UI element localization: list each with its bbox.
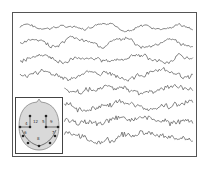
electrode-dot (49, 142, 52, 145)
eeg-trace-5 (64, 84, 192, 95)
electrode-dot (57, 126, 60, 129)
eeg-trace-8 (64, 131, 192, 145)
electrode-dot (29, 126, 32, 129)
electrode-dot (54, 135, 57, 138)
eeg-trace-1 (20, 23, 193, 32)
eeg-trace-7 (64, 116, 192, 126)
electrode-dot (19, 126, 22, 129)
electrode-dot (27, 142, 30, 145)
eeg-figure: 41259678 (0, 0, 208, 170)
electrode-dot (45, 126, 48, 129)
eeg-trace-2 (20, 36, 193, 48)
electrode-map-inset: 41259678 (16, 98, 63, 154)
electrode-label: 12 (33, 119, 39, 124)
electrode-dot (38, 145, 41, 148)
eeg-trace-4 (20, 68, 193, 82)
eeg-trace-6 (64, 99, 192, 112)
electrode-dot (22, 135, 25, 138)
electrode-dot (45, 115, 48, 118)
eeg-trace-3 (20, 54, 193, 64)
electrode-dot (29, 115, 32, 118)
